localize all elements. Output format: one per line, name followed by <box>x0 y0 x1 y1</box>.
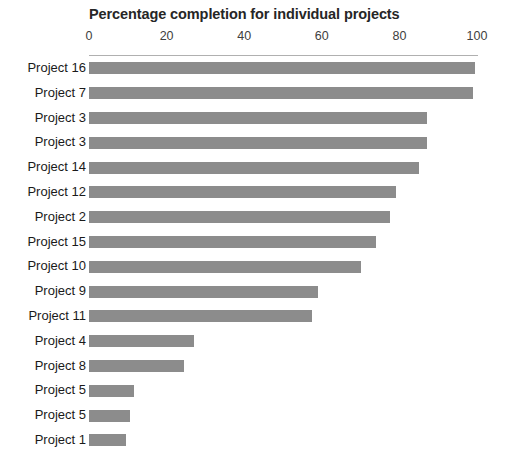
bar-row: Project 12 <box>0 180 513 205</box>
bar-row: Project 11 <box>0 304 513 329</box>
bar-row: Project 5 <box>0 378 513 403</box>
bar-category-label: Project 7 <box>35 81 86 106</box>
bar <box>89 261 361 273</box>
bar-row: Project 4 <box>0 329 513 354</box>
bar <box>89 211 390 223</box>
bar-row: Project 14 <box>0 155 513 180</box>
bar-category-label: Project 9 <box>35 279 86 304</box>
bar <box>89 385 134 397</box>
bar <box>89 137 427 149</box>
x-axis-tick-0: 0 <box>86 29 93 43</box>
bar <box>89 410 130 422</box>
bar-category-label: Project 4 <box>35 329 86 354</box>
bar-category-label: Project 16 <box>27 56 86 81</box>
x-axis-tick-80: 80 <box>392 29 406 43</box>
bar-row: Project 15 <box>0 230 513 255</box>
bar <box>89 62 475 74</box>
bar-category-label: Project 3 <box>35 106 86 131</box>
bar-category-label: Project 3 <box>35 130 86 155</box>
bar-row: Project 9 <box>0 279 513 304</box>
bar-category-label: Project 8 <box>35 354 86 379</box>
bar-chart: Percentage completion for individual pro… <box>0 0 513 459</box>
bar-category-label: Project 5 <box>35 403 86 428</box>
bar-category-label: Project 14 <box>27 155 86 180</box>
x-axis-tick-40: 40 <box>237 29 251 43</box>
bar-row: Project 1 <box>0 428 513 453</box>
plot-area: Project 16Project 7Project 3Project 3Pro… <box>0 56 513 459</box>
bar-category-label: Project 2 <box>35 205 86 230</box>
x-axis-tick-100: 100 <box>467 29 488 43</box>
bar <box>89 286 318 298</box>
bar-row: Project 3 <box>0 106 513 131</box>
bar-row: Project 2 <box>0 205 513 230</box>
bar-row: Project 5 <box>0 403 513 428</box>
bar-category-label: Project 11 <box>28 304 86 329</box>
bar <box>89 434 126 446</box>
x-axis-tick-60: 60 <box>315 29 329 43</box>
bar <box>89 360 184 372</box>
bar-category-label: Project 1 <box>35 428 86 453</box>
bar-row: Project 7 <box>0 81 513 106</box>
x-axis-tick-20: 20 <box>160 29 174 43</box>
bar <box>89 236 376 248</box>
bar <box>89 310 312 322</box>
bar <box>89 186 396 198</box>
bar-row: Project 10 <box>0 254 513 279</box>
bar-row: Project 8 <box>0 354 513 379</box>
bar-category-label: Project 15 <box>27 230 86 255</box>
bar <box>89 335 194 347</box>
bar-category-label: Project 5 <box>35 378 86 403</box>
bar-category-label: Project 12 <box>27 180 86 205</box>
bar <box>89 87 473 99</box>
x-axis-tick-labels: 020406080100 <box>0 29 513 47</box>
bar <box>89 112 427 124</box>
bar <box>89 162 419 174</box>
bar-row: Project 16 <box>0 56 513 81</box>
chart-title: Percentage completion for individual pro… <box>89 6 400 22</box>
bar-row: Project 3 <box>0 130 513 155</box>
bar-category-label: Project 10 <box>27 254 86 279</box>
